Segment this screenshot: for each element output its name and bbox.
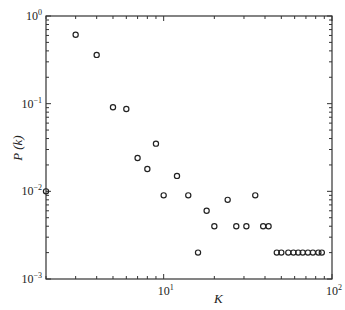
data-point-marker	[225, 197, 230, 202]
y-tick-label: 10−2	[21, 183, 42, 198]
plot-frame	[46, 16, 332, 279]
y-tick-label: 100	[26, 8, 42, 23]
x-axis-title: K	[213, 291, 224, 306]
x-tick-label: 101	[158, 283, 174, 298]
data-point-marker	[73, 32, 78, 37]
data-point-marker	[261, 224, 266, 229]
data-point-marker	[266, 224, 271, 229]
data-point-marker	[244, 224, 249, 229]
data-point-marker	[161, 193, 166, 198]
data-point-marker	[319, 250, 324, 255]
data-points	[43, 32, 324, 255]
y-axis-title: P (k)	[10, 135, 25, 161]
data-point-marker	[186, 193, 191, 198]
axis-ticks	[46, 16, 332, 279]
data-point-marker	[204, 208, 209, 213]
data-point-marker	[212, 224, 217, 229]
axis-tick-labels: 10110210010−110−210−3	[21, 8, 342, 298]
y-tick-label: 10−3	[21, 271, 42, 286]
x-tick-label: 102	[326, 283, 342, 298]
data-point-marker	[110, 105, 115, 110]
data-point-marker	[153, 141, 158, 146]
data-point-marker	[94, 52, 99, 57]
data-point-marker	[174, 173, 179, 178]
data-point-marker	[145, 166, 150, 171]
y-tick-label: 10−1	[21, 96, 42, 111]
data-point-marker	[135, 155, 140, 160]
data-point-marker	[253, 193, 258, 198]
data-point-marker	[195, 250, 200, 255]
data-point-marker	[124, 106, 129, 111]
loglog-scatter-chart: 10110210010−110−210−3 K P (k)	[0, 0, 345, 310]
data-point-marker	[286, 250, 291, 255]
data-point-marker	[234, 224, 239, 229]
plot-border	[46, 16, 332, 279]
